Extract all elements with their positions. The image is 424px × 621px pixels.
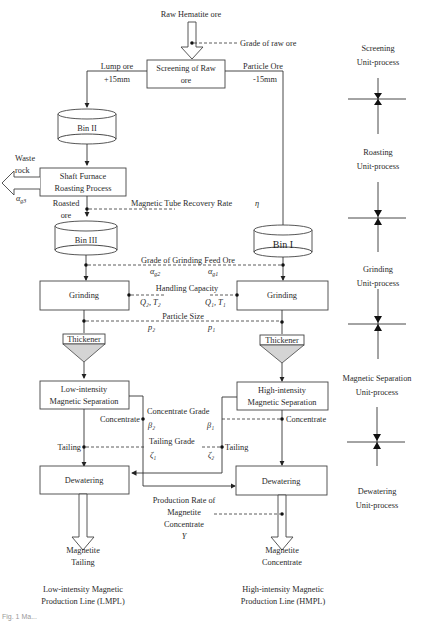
unit-process-magnetic-separation: Magnetic Separation Unit-process	[343, 374, 413, 466]
svg-text:Dewatering: Dewatering	[358, 487, 397, 496]
grinding-label-left: Grinding	[69, 291, 99, 300]
magnetic-tube-label: Magnetic Tube Recovery Rate	[131, 199, 232, 208]
handling-capacity-label: Handling Capacity	[156, 284, 219, 293]
low-sep-label-1: Low-intensity	[61, 385, 108, 394]
svg-text:Magnetic Separation: Magnetic Separation	[343, 374, 413, 383]
unit-process-dewatering: Dewatering Unit-process	[356, 487, 398, 510]
thickener-label-left: Thickener	[67, 335, 101, 344]
lmpl-label-2: Production Line (LMPL)	[41, 597, 125, 606]
unit-process-roasting: Roasting Unit-process	[348, 148, 406, 252]
svg-text:Grinding: Grinding	[363, 265, 393, 274]
concentrate-grade-right: β₁	[206, 421, 214, 430]
production-rate-symbol: Y	[182, 532, 188, 541]
hmpl-label-1: High-intensity Magnetic	[242, 585, 324, 594]
bin-ii-label: Bin II	[77, 124, 97, 133]
low-sep-label-2: Magnetic Separation	[50, 397, 120, 406]
output-left-label-1: Magnetite	[66, 546, 100, 555]
tailing-grade-right: ζ₂	[208, 451, 214, 460]
roasted-ore-label-1: Roasted	[53, 199, 81, 208]
roasting-label-2: Roasting Process	[55, 184, 112, 193]
concentrate-label-left: Concentrate	[100, 415, 140, 424]
lump-ore-size: +15mm	[104, 75, 130, 84]
unit-process-screening: Screening Unit-process	[348, 44, 406, 134]
grinding-label-right: Grinding	[267, 291, 297, 300]
grade-raw-ore-point	[190, 41, 194, 45]
grade-raw-ore-label: Grade of raw ore	[240, 39, 297, 48]
particle-ore-size: -15mm	[253, 75, 278, 84]
concentrate-label-right: Concentrate	[286, 415, 326, 424]
magnetic-tube-symbol: η	[255, 199, 259, 208]
roasted-ore-label-2: ore	[61, 211, 72, 220]
svg-text:Unit-process: Unit-process	[356, 388, 398, 397]
output-right-label-2: Concentrate	[262, 558, 302, 567]
concentrate-grade-left: β₂	[147, 421, 155, 430]
grinding-feed-right-symbol: αg1	[208, 267, 218, 277]
bin-iii-label: Bin III	[75, 236, 98, 245]
output-left-label-2: Tailing	[71, 558, 94, 567]
dewatering-label-left: Dewatering	[65, 476, 104, 485]
magnetic-tube-point	[85, 207, 89, 211]
production-rate-label-3: Concentrate	[164, 520, 204, 529]
process-flow-diagram: Raw Hematite ore Grade of raw ore Screen…	[0, 0, 424, 621]
lump-ore-label: Lump ore	[101, 62, 134, 71]
production-rate-label-2: Magnetite	[167, 508, 201, 517]
tailing-grade-label: Tailing Grade	[149, 437, 195, 446]
screening-label-2: ore	[181, 76, 192, 85]
figure-caption: Fig. 1 Ma...	[2, 613, 37, 621]
tailing-label-right: Tailing	[225, 443, 248, 452]
handling-capacity-left: Q₂, T₂	[140, 298, 161, 307]
screening-label-1: Screening of Raw	[156, 64, 215, 73]
raw-hematite-label: Raw Hematite ore	[161, 10, 222, 19]
high-sep-label-2: Magnetic Separation	[248, 398, 318, 407]
raw-ore-input-arrow-icon	[181, 22, 203, 59]
waste-label-2: rock	[15, 166, 31, 175]
high-sep-label-1: High-intensity	[258, 386, 307, 395]
particle-size-left: p₂	[147, 323, 155, 332]
dewatering-label-right: Dewatering	[262, 477, 301, 486]
svg-text:Unit-process: Unit-process	[356, 501, 398, 510]
particle-ore-label: Particle Ore	[243, 62, 283, 71]
hmpl-label-2: Production Line (HMPL)	[241, 597, 326, 606]
grinding-feed-grade-label: Grade of Grinding Feed Ore	[141, 256, 235, 265]
lmpl-label-1: Low-intensity Magnetic	[43, 585, 123, 594]
grinding-feed-left-symbol: αg2	[150, 267, 160, 277]
magnetite-concentrate-output-arrow-icon	[271, 495, 293, 550]
roasting-label-1: Shaft Furnace	[60, 172, 107, 181]
svg-text:Roasting: Roasting	[363, 148, 393, 157]
tailing-grade-left: ζ₁	[150, 451, 156, 460]
unit-process-grinding: Grinding Unit-process	[348, 265, 406, 359]
bin-i-label: Bin I	[273, 239, 293, 250]
handling-capacity-right: Q₁, T₁	[205, 298, 226, 307]
magnetite-tailing-output-arrow-icon	[72, 494, 94, 550]
production-rate-label-1: Production Rate of	[153, 496, 216, 505]
output-right-label-1: Magnetite	[265, 546, 299, 555]
svg-text:Unit-process: Unit-process	[357, 58, 399, 67]
waste-label-1: Waste	[15, 154, 35, 163]
concentrate-grade-label: Concentrate Grade	[147, 407, 210, 416]
svg-text:Screening: Screening	[361, 44, 394, 53]
svg-text:Unit-process: Unit-process	[357, 162, 399, 171]
waste-grade-symbol: αg3	[16, 194, 26, 204]
particle-size-label: Particle Size	[162, 312, 204, 321]
svg-text:Unit-process: Unit-process	[357, 279, 399, 288]
tailing-label-left: Tailing	[58, 443, 81, 452]
particle-size-right: p₁	[207, 323, 215, 332]
thickener-label-right: Thickener	[265, 336, 299, 345]
